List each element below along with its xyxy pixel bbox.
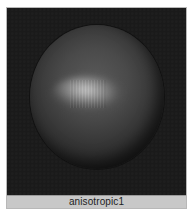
swatch-label-bar[interactable]: anisotropic1 [7, 195, 186, 208]
material-swatch[interactable]: anisotropic1 [6, 7, 187, 209]
preview-sphere [30, 25, 164, 169]
anisotropic-streaks [70, 80, 106, 108]
material-preview[interactable] [7, 8, 186, 195]
swatch-name-label: anisotropic1 [69, 196, 124, 208]
